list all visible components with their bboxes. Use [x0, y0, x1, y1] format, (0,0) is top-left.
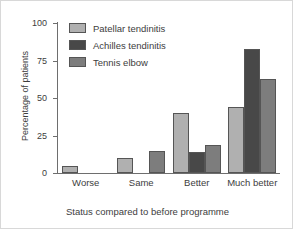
bar: [117, 158, 133, 173]
legend-label: Achilles tendinitis: [93, 40, 166, 51]
x-tick-label: Worse: [58, 177, 114, 188]
bar: [173, 113, 189, 173]
legend-label: Tennis elbow: [93, 57, 148, 68]
legend-swatch-icon: [69, 40, 86, 50]
y-tick-label: 0: [7, 169, 47, 178]
y-tick-label: 25: [7, 132, 47, 141]
legend-item: Achilles tendinitis: [69, 37, 166, 53]
y-tick-label: 75: [7, 57, 47, 66]
bar: [62, 166, 78, 174]
bar: [244, 49, 260, 174]
x-tick-label: Same: [114, 177, 170, 188]
legend-swatch-icon: [69, 23, 86, 33]
x-axis-line: [57, 173, 280, 174]
x-tick-label: Better: [169, 177, 225, 188]
bar: [205, 145, 221, 174]
y-tick-label: 100: [7, 19, 47, 28]
x-tick-label: Much better: [225, 177, 281, 188]
chart-figure: Percentage of patients 0255075100 WorseS…: [0, 0, 293, 229]
y-tick-label: 50: [7, 94, 47, 103]
legend-item: Patellar tendinitis: [69, 20, 166, 36]
y-tick-mark: [53, 173, 58, 174]
bar: [149, 151, 165, 174]
bar: [189, 152, 205, 173]
chart-legend: Patellar tendinitisAchilles tendinitisTe…: [69, 20, 166, 71]
x-axis-title: Status compared to before programme: [1, 206, 293, 217]
bar: [228, 107, 244, 173]
legend-item: Tennis elbow: [69, 54, 166, 70]
bar: [260, 79, 276, 174]
legend-swatch-icon: [69, 57, 86, 67]
legend-label: Patellar tendinitis: [93, 23, 165, 34]
